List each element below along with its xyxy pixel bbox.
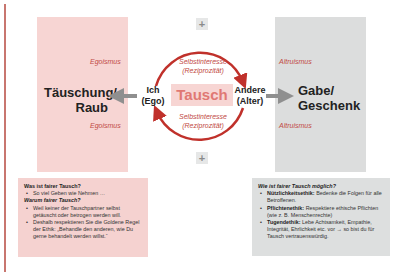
bullet-why-2: Deshalb respektieren Sie die Goldene Reg… — [33, 219, 142, 241]
self-interest-bottom-line1: Selbstinteresse — [168, 112, 238, 121]
fair-exchange-info-left: Was ist fairer Tausch? So viel Geben wie… — [18, 178, 148, 257]
question-what: Was ist fairer Tausch? — [24, 183, 142, 190]
alter-line2: (Alter) — [232, 96, 268, 107]
question-how: Wie ist fairer Tausch möglich? — [258, 183, 384, 190]
self-interest-bottom: Selbstinteresse (Reziprozität) — [168, 112, 238, 130]
alter-line1: Andere — [232, 85, 268, 96]
answer-what: So viel Geben wie Nehmen … — [33, 190, 142, 197]
self-interest-top-line2: (Reziprozität) — [168, 66, 238, 75]
alter-node: Andere (Alter) — [232, 85, 268, 107]
ethics-virtue: Tugendethik: Lebe Achtsamkeit, Empathie,… — [267, 219, 384, 241]
ethics-duty-term: Pflichtenethik: — [267, 205, 304, 211]
ego-line2: (Ego) — [140, 96, 166, 107]
self-interest-top: Selbstinteresse (Reziprozität) — [168, 57, 238, 75]
plus-icon-bottom: + — [196, 152, 208, 164]
exchange-label: Tausch — [171, 84, 233, 106]
ethics-duty: Pflichtenethik: Respektiere ethische Pfl… — [267, 205, 384, 219]
ethics-virtue-term: Tugendethik: — [267, 219, 300, 225]
plus-icon-top: + — [196, 18, 208, 30]
ethics-utility: Nützlichkeitsethik: Bedenke die Folgen f… — [267, 190, 384, 204]
ethics-utility-term: Nützlichkeitsethik: — [267, 190, 315, 196]
fair-exchange-info-right: Wie ist fairer Tausch möglich? Nützlichk… — [252, 178, 390, 256]
ego-node: Ich (Ego) — [140, 85, 166, 107]
self-interest-bottom-line2: (Reziprozität) — [168, 121, 238, 130]
bullet-why-1: Weil keiner der Tauschpartner selbst get… — [33, 205, 142, 219]
self-interest-top-line1: Selbstinteresse — [168, 57, 238, 66]
question-why: Warum fairer Tausch? — [24, 197, 142, 204]
ego-line1: Ich — [140, 85, 166, 96]
